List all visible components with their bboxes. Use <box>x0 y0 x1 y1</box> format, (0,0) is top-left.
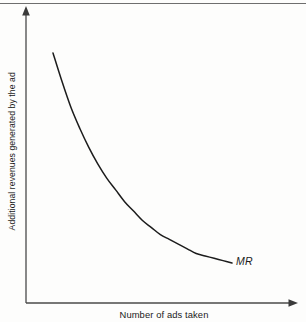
plot-area <box>0 0 306 322</box>
mr-curve-label: MR <box>236 255 253 267</box>
y-axis-title-wrapper: Additional revenues generated by the ad <box>0 0 24 302</box>
figure-container: MR Number of ads taken Additional revenu… <box>0 0 306 322</box>
y-axis-title: Additional revenues generated by the ad <box>8 72 17 230</box>
mr-curve <box>53 53 232 263</box>
x-axis-arrow-icon <box>289 299 299 307</box>
x-axis-title: Number of ads taken <box>0 309 306 320</box>
